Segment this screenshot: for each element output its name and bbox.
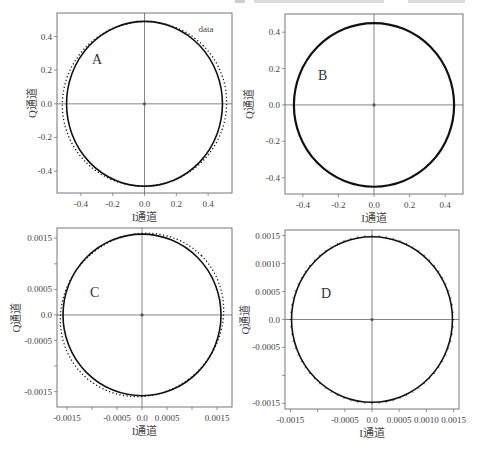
x-tick-label: 0.0 [366,415,378,425]
x-tick-label: -0.2 [331,200,345,210]
x-axis-title: I通道 [359,426,385,439]
x-tick-label: 0.0005 [387,415,412,425]
y-tick-label: 0.4 [269,27,281,37]
x-axis-title: I通道 [132,424,158,437]
plot-frame [57,228,232,407]
y-axis-title: Q通道 [242,89,255,119]
origin-marker [372,103,375,106]
y-axis-title: Q通道 [25,88,38,118]
y-tick-label: 0.0 [269,315,281,325]
x-axis-title: I通道 [132,210,158,223]
x-tick-label: 0.4 [203,199,215,209]
data-tick [429,260,430,261]
x-tick-label: -0.0015 [277,415,305,425]
panel-label: A [92,52,103,67]
x-tick-label: -0.0005 [331,415,359,425]
x-tick-label: 0.4 [440,200,452,210]
y-tick-label: 0.0015 [27,233,52,243]
x-tick-label: 0.0015 [205,413,230,423]
data-tick [314,378,315,379]
panel-d: -0.0015-0.00050.00.00050.00100.00150.001… [238,230,466,439]
y-tick-label: 0.0 [41,99,53,109]
x-tick-label: -0.2 [106,199,120,209]
y-tick-label: -0.4 [38,166,53,176]
panel-b: -0.4-0.20.00.20.40.40.20.0-0.2-0.4I通道Q通道… [242,14,463,224]
y-tick-label: 0.2 [269,64,280,74]
legend-data: data [199,24,214,34]
y-tick-label: 0.0015 [255,231,280,241]
x-tick-label: 0.0 [368,200,380,210]
origin-marker [143,102,146,105]
y-axis-title: Q通道 [9,303,22,333]
y-tick-label: -0.2 [266,136,280,146]
y-tick-label: 0.0005 [255,287,280,297]
x-tick-label: 0.2 [171,199,182,209]
x-tick-label: -0.0005 [103,413,131,423]
figure-canvas: -0.4-0.20.00.20.40.40.20.0-0.2-0.4I通道Q通道… [0,0,479,451]
y-tick-label: 0.0005 [27,284,52,294]
panel-a: -0.4-0.20.00.20.40.40.20.0-0.2-0.4I通道Q通道… [25,0,261,223]
panel-label: C [90,285,99,300]
origin-marker [140,313,143,316]
x-tick-label: -0.0015 [53,413,81,423]
y-tick-label: 0.2 [41,65,52,75]
x-tick-label: -0.4 [296,200,311,210]
panel-label: B [318,68,327,83]
y-tick-label: 0.4 [41,32,53,42]
x-tick-label: -0.4 [74,199,89,209]
y-axis-title: Q通道 [238,305,251,335]
x-tick-label: 0.2 [404,200,415,210]
x-axis-title: I通道 [361,211,387,224]
y-tick-label: -0.0005 [252,342,280,352]
data-tick [429,378,430,379]
panel-c: -0.0015-0.00050.00.00050.00150.00150.000… [9,199,257,437]
y-tick-label: -0.0015 [24,387,52,397]
x-tick-label: 0.0 [136,413,148,423]
y-tick-label: -0.0005 [24,336,52,346]
x-tick-label: 0.0005 [155,413,180,423]
y-tick-label: -0.0015 [252,398,280,408]
y-tick-label: 0.0 [41,310,53,320]
y-tick-label: 0.0 [269,100,281,110]
y-tick-label: 0.0010 [255,259,280,269]
y-tick-label: -0.2 [38,132,52,142]
x-tick-label: 0.0 [139,199,151,209]
x-tick-label: 0.0015 [441,415,466,425]
data-tick [314,260,315,261]
y-tick-label: -0.4 [266,173,281,183]
origin-marker [370,318,373,321]
panel-label: D [321,286,331,301]
x-tick-label: 0.0010 [414,415,439,425]
